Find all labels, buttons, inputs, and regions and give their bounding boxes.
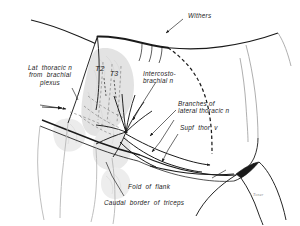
anatomical-figure: Withers Lat thoracic n from brachial ple… (0, 0, 300, 226)
nerve-convergence-node (124, 130, 127, 133)
leader-intercostobrachial (133, 82, 156, 120)
label-intercostobrachial-n: Intercosto- brachial n (143, 70, 176, 85)
label-supf-thoracic-vein: Supf thor v (180, 124, 218, 131)
hindquarter-contours (240, 33, 291, 142)
stifle-region (196, 162, 286, 225)
label-spinal-segment-t3: T3 (110, 70, 118, 77)
leader-fold-of-flank (212, 170, 226, 178)
dorsal-topline (31, 20, 278, 49)
leader-lat-thoracic-a (72, 88, 78, 100)
artist-signature: Toner (253, 192, 264, 197)
label-caudal-border-triceps: Caudal border of triceps (104, 199, 184, 206)
leader-supf-thor-v (162, 134, 178, 162)
label-fold-of-flank: Fold of flank (128, 183, 170, 190)
label-withers: Withers (188, 12, 211, 19)
label-spinal-segment-t2: T2 (95, 64, 104, 73)
shoulder-pointer-arrow (42, 107, 62, 108)
label-lat-thoracic-n: Lat thoracic n from brachial plexus (12, 64, 88, 86)
label-branches-lateral-thoracic-n: Branches of lateral thoracic n (178, 100, 229, 115)
leader-branches-b (152, 120, 174, 152)
ventral-thorax-line (138, 155, 236, 181)
leader-withers (166, 19, 183, 33)
